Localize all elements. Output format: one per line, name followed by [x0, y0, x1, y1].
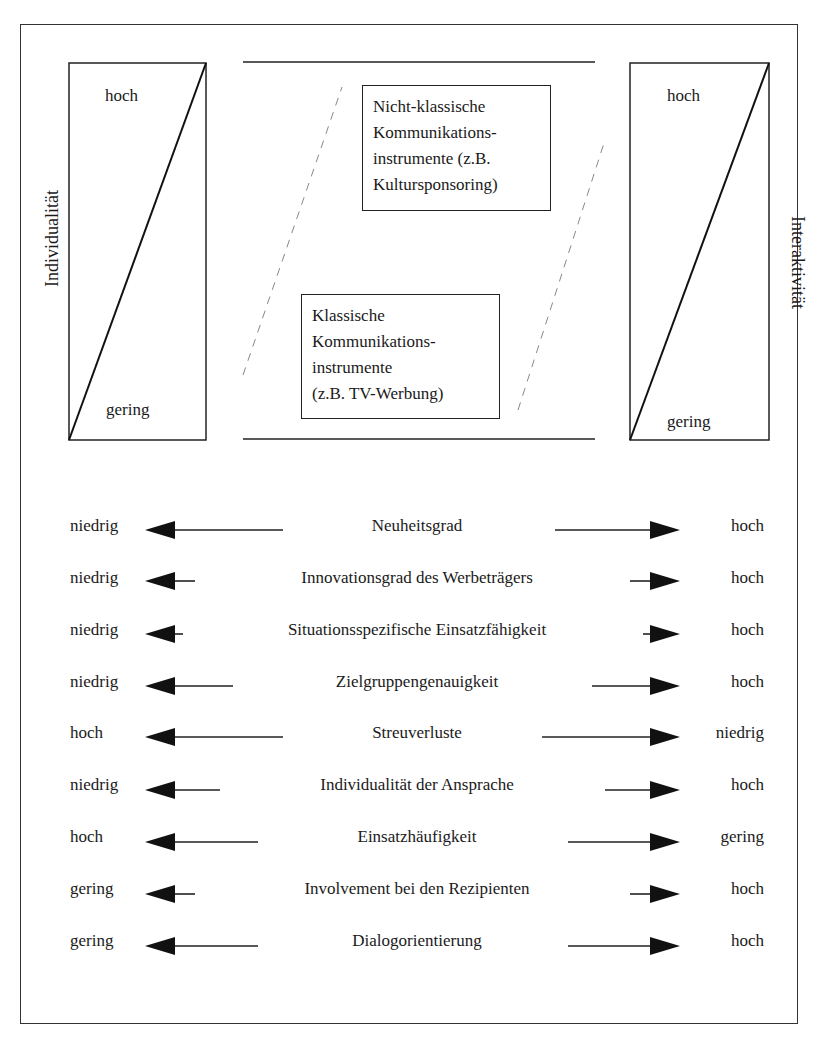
criterion-right-value: hoch [731, 568, 764, 588]
box-line: Nicht-klassische [373, 94, 540, 120]
criterion-right-value: hoch [731, 775, 764, 795]
box-line: instrumente [312, 355, 489, 381]
criterion-label: Situationsspezifische Einsatzfähigkeit [0, 620, 834, 640]
criterion-label: Dialogorientierung [0, 931, 834, 951]
right-scale-top-label: hoch [667, 86, 700, 106]
criterion-label: Streuverluste [0, 723, 834, 743]
box-line: Kultursponsoring) [373, 172, 540, 198]
criterion-right-value: hoch [731, 620, 764, 640]
criterion-right-value: gering [721, 827, 764, 847]
right-axis-label: Interaktivität [787, 203, 808, 323]
criterion-right-value: niedrig [716, 723, 764, 743]
left-scale-top-label: hoch [105, 86, 138, 106]
right-scale-diagonal [630, 63, 769, 440]
right-scale-bottom-label: gering [667, 412, 710, 432]
left-scale-diagonal [69, 63, 206, 440]
criterion-label: Zielgruppengenauigkeit [0, 672, 834, 692]
criterion-label: Neuheitsgrad [0, 516, 834, 536]
box-line: Kommunikations- [312, 329, 489, 355]
box-line: (z.B. TV-Werbung) [312, 381, 489, 407]
left-scale-bottom-label: gering [106, 400, 149, 420]
criterion-label: Einsatzhäufigkeit [0, 827, 834, 847]
criterion-right-value: hoch [731, 931, 764, 951]
criterion-right-value: hoch [731, 879, 764, 899]
box-line: Klassische [312, 303, 489, 329]
classic-instruments-box: Klassische Kommunikations- instrumente (… [301, 294, 500, 419]
box-line: instrumente (z.B. [373, 146, 540, 172]
criterion-right-value: hoch [731, 672, 764, 692]
criterion-label: Innovationsgrad des Werbeträgers [0, 568, 834, 588]
criterion-label: Individualität der Ansprache [0, 775, 834, 795]
non-classic-instruments-box: Nicht-klassische Kommunikations- instrum… [362, 85, 551, 211]
criterion-label: Involvement bei den Rezipienten [0, 879, 834, 899]
left-axis-label: Individualität [42, 179, 63, 299]
box-line: Kommunikations- [373, 120, 540, 146]
criterion-right-value: hoch [731, 516, 764, 536]
